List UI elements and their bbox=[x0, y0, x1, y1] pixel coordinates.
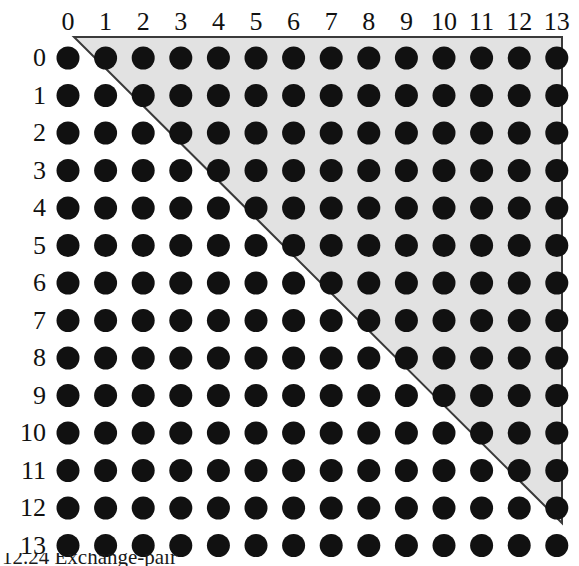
grid-dot bbox=[357, 459, 380, 482]
grid-dot bbox=[395, 422, 418, 445]
grid-dot bbox=[94, 47, 117, 70]
grid-dot bbox=[320, 159, 343, 182]
grid-dot bbox=[320, 47, 343, 70]
grid-dot bbox=[433, 84, 456, 107]
grid-dot bbox=[508, 347, 531, 370]
grid-dot bbox=[169, 197, 192, 220]
grid-dot bbox=[395, 47, 418, 70]
grid-dot bbox=[508, 309, 531, 332]
grid-dot bbox=[132, 234, 155, 257]
grid-dot bbox=[169, 234, 192, 257]
grid-dot bbox=[433, 159, 456, 182]
grid-dot bbox=[470, 272, 493, 295]
grid-dot bbox=[357, 384, 380, 407]
grid-dot bbox=[57, 384, 80, 407]
grid-dot bbox=[207, 459, 230, 482]
grid-dot bbox=[169, 309, 192, 332]
grid-dot bbox=[470, 159, 493, 182]
grid-dot bbox=[470, 459, 493, 482]
grid-dot bbox=[245, 122, 268, 145]
grid-dot bbox=[320, 197, 343, 220]
grid-dot bbox=[357, 234, 380, 257]
row-label-11: 11 bbox=[0, 458, 46, 484]
grid-dot bbox=[395, 384, 418, 407]
grid-dot bbox=[545, 459, 568, 482]
grid-dot bbox=[545, 384, 568, 407]
grid-dot bbox=[395, 347, 418, 370]
grid-dot bbox=[94, 347, 117, 370]
grid-dot bbox=[470, 197, 493, 220]
grid-dot bbox=[545, 84, 568, 107]
grid-dot bbox=[433, 234, 456, 257]
grid-dot bbox=[545, 422, 568, 445]
grid-dot bbox=[245, 47, 268, 70]
grid-dot bbox=[395, 234, 418, 257]
grid-dot bbox=[357, 347, 380, 370]
grid-dot bbox=[357, 422, 380, 445]
grid-dot bbox=[132, 347, 155, 370]
grid-dot bbox=[207, 497, 230, 520]
grid-dot bbox=[470, 309, 493, 332]
grid-dot bbox=[169, 347, 192, 370]
grid-dot bbox=[169, 159, 192, 182]
grid-dot bbox=[545, 347, 568, 370]
grid-dot bbox=[169, 497, 192, 520]
grid-dot bbox=[433, 122, 456, 145]
grid-dot bbox=[470, 47, 493, 70]
grid-dot bbox=[320, 459, 343, 482]
grid-dot bbox=[433, 347, 456, 370]
grid-dot bbox=[508, 384, 531, 407]
grid-dot bbox=[282, 384, 305, 407]
grid-dot bbox=[245, 497, 268, 520]
grid-dot bbox=[433, 422, 456, 445]
grid-dot bbox=[169, 384, 192, 407]
grid-dot bbox=[545, 497, 568, 520]
grid-dot bbox=[132, 422, 155, 445]
row-label-0: 0 bbox=[0, 45, 46, 71]
grid-dot bbox=[508, 159, 531, 182]
grid-dot bbox=[508, 422, 531, 445]
grid-dot bbox=[94, 309, 117, 332]
grid-dot bbox=[508, 47, 531, 70]
grid-dot bbox=[57, 459, 80, 482]
grid-dot bbox=[207, 159, 230, 182]
grid-dot bbox=[132, 47, 155, 70]
grid-dot bbox=[320, 272, 343, 295]
grid-dot bbox=[508, 234, 531, 257]
grid-dot bbox=[57, 309, 80, 332]
row-label-12: 12 bbox=[0, 495, 46, 521]
grid-dot bbox=[395, 122, 418, 145]
grid-dot bbox=[94, 122, 117, 145]
grid-dot bbox=[508, 197, 531, 220]
row-label-9: 9 bbox=[0, 383, 46, 409]
grid-dot bbox=[433, 309, 456, 332]
grid-dot bbox=[245, 459, 268, 482]
grid-dot bbox=[94, 459, 117, 482]
grid-dot bbox=[545, 234, 568, 257]
grid-dot bbox=[545, 47, 568, 70]
row-label-10: 10 bbox=[0, 420, 46, 446]
grid-dot bbox=[207, 422, 230, 445]
grid-dot bbox=[357, 159, 380, 182]
grid-dot bbox=[357, 272, 380, 295]
grid-dot bbox=[357, 122, 380, 145]
grid-dot bbox=[470, 497, 493, 520]
grid-dot bbox=[470, 422, 493, 445]
grid-dot bbox=[245, 84, 268, 107]
grid-dot bbox=[320, 347, 343, 370]
grid-dot bbox=[282, 47, 305, 70]
dot-matrix-svg bbox=[0, 0, 579, 566]
grid-dot bbox=[169, 47, 192, 70]
grid-dot bbox=[132, 384, 155, 407]
grid-dot bbox=[245, 159, 268, 182]
grid-dot bbox=[357, 197, 380, 220]
grid-dot bbox=[132, 197, 155, 220]
row-label-5: 5 bbox=[0, 233, 46, 259]
grid-dot bbox=[94, 384, 117, 407]
grid-dot bbox=[395, 197, 418, 220]
grid-dot bbox=[433, 47, 456, 70]
grid-dot bbox=[320, 384, 343, 407]
grid-dot bbox=[357, 47, 380, 70]
grid-dot bbox=[57, 497, 80, 520]
grid-dot bbox=[320, 497, 343, 520]
